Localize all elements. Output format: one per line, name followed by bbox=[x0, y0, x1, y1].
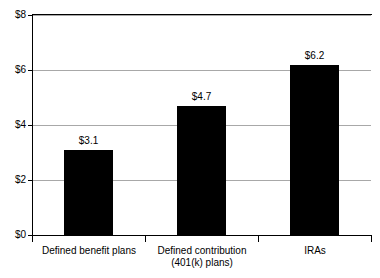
y-tick-8 bbox=[28, 15, 33, 16]
x-category-label-2-line1: Defined contribution bbox=[158, 245, 247, 256]
plot-top-border bbox=[32, 14, 372, 15]
x-category-label-3: IRAs bbox=[252, 245, 378, 257]
y-tick-4 bbox=[28, 125, 33, 126]
bar-value-label-2: $4.7 bbox=[177, 91, 226, 102]
gridline-8 bbox=[32, 15, 371, 16]
bar-value-label-1: $3.1 bbox=[64, 135, 113, 146]
x-category-label-1-line1: Defined benefit plans bbox=[42, 245, 136, 256]
x-category-label-3-line1: IRAs bbox=[304, 245, 326, 256]
x-axis-line bbox=[32, 235, 372, 236]
y-axis-label-8: $8 bbox=[15, 10, 26, 20]
x-tick-start bbox=[32, 236, 33, 242]
x-category-label-1: Defined benefit plans bbox=[26, 245, 152, 257]
x-tick-boundary-1 bbox=[145, 236, 146, 242]
y-tick-2 bbox=[28, 180, 33, 181]
bar-defined-benefit-plans bbox=[64, 150, 113, 235]
y-tick-6 bbox=[28, 70, 33, 71]
x-category-label-2: Defined contribution (401(k) plans) bbox=[139, 245, 265, 269]
y-axis-label-2: $2 bbox=[15, 175, 26, 185]
bar-defined-contribution-plans bbox=[177, 106, 226, 235]
bar-iras bbox=[290, 65, 339, 235]
y-axis-label-4: $4 bbox=[15, 120, 26, 130]
x-tick-end bbox=[371, 236, 372, 242]
y-axis-label-0: $0 bbox=[15, 230, 26, 240]
bar-chart: $8 $6 $4 $2 $0 $3.1 $4.7 $6.2 Defined be… bbox=[0, 0, 380, 278]
x-tick-boundary-2 bbox=[258, 236, 259, 242]
bar-value-label-3: $6.2 bbox=[290, 50, 339, 61]
x-category-label-2-line2: (401(k) plans) bbox=[139, 257, 265, 269]
y-axis-label-6: $6 bbox=[15, 65, 26, 75]
